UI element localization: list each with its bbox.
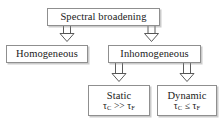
edge-inhomogeneous-to-dynamic — [184, 63, 191, 74]
static-operator: >> — [111, 101, 127, 111]
arrowhead-dynamic — [180, 74, 194, 82]
node-dynamic-label: Dynamic — [167, 90, 206, 101]
node-inhomogeneous: Inhomogeneous — [108, 45, 201, 63]
spectral-broadening-flowchart: Spectral broadening Homogeneous Inhomoge… — [0, 0, 223, 120]
node-static-formula: τC >> τF — [103, 102, 135, 112]
dynamic-operator: ≤ — [182, 101, 192, 111]
arrowhead-inhomogeneous — [145, 34, 159, 42]
node-spectral-broadening: Spectral broadening — [47, 8, 160, 26]
dynamic-sub-f: F — [196, 104, 200, 111]
edge-root-to-homogeneous — [64, 26, 71, 34]
edge-inhomogeneous-to-static — [116, 63, 123, 74]
node-inhomogeneous-label: Inhomogeneous — [120, 48, 188, 59]
edge-root-to-inhomogeneous — [148, 26, 155, 34]
node-static-label: Static — [107, 90, 132, 101]
static-sub-f: F — [131, 104, 135, 111]
node-dynamic: Dynamic τC ≤ τF — [157, 85, 217, 116]
node-homogeneous: Homogeneous — [6, 45, 88, 63]
arrowhead-static — [112, 74, 126, 82]
node-dynamic-formula: τC ≤ τF — [174, 102, 200, 112]
node-spectral-broadening-label: Spectral broadening — [60, 11, 146, 22]
node-homogeneous-label: Homogeneous — [16, 48, 78, 59]
arrowhead-homogeneous — [60, 34, 74, 42]
node-static: Static τC >> τF — [88, 85, 150, 116]
